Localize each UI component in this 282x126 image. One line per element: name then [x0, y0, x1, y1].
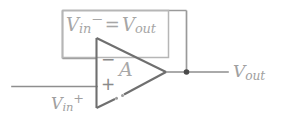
vout-v-symbol: V — [233, 61, 245, 81]
relation-v-subscript: in — [79, 21, 91, 36]
noninverting-input-label: Vin+ — [51, 93, 84, 114]
inverting-input-pin-label: − — [101, 51, 115, 68]
triangle-edge-gap-dot-left — [115, 97, 118, 100]
opamp-gain-label: A — [119, 60, 133, 79]
relation-v2-subscript: out — [135, 21, 156, 36]
relation-v-superscript: − — [91, 11, 103, 27]
vin-subscript: in — [63, 100, 74, 114]
vout-subscript: out — [245, 69, 265, 83]
opamp-circuit-diagram: Vin−=Vout A − + Vin+ Vout — [0, 0, 282, 126]
triangle-bottom-edge-inner — [97, 99, 116, 108]
triangle-edge-gap-dot-right — [121, 94, 124, 97]
vin-v-symbol: V — [51, 94, 63, 113]
relation-v2-symbol: V — [122, 14, 135, 35]
relation-v-symbol: V — [66, 14, 79, 35]
feedback-relation-label: Vin−=Vout — [66, 12, 156, 36]
vin-superscript: + — [73, 91, 83, 106]
relation-equals-sign: = — [103, 14, 122, 35]
noninverting-input-pin-label: + — [101, 76, 115, 93]
output-junction-dot — [184, 69, 190, 75]
output-terminal-label: Vout — [233, 63, 265, 82]
